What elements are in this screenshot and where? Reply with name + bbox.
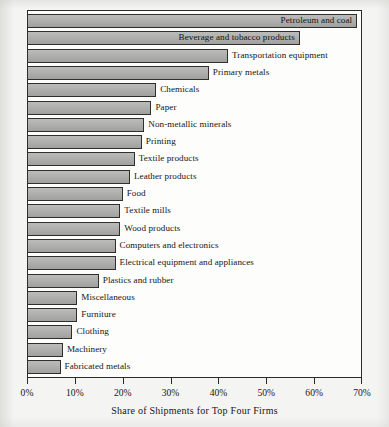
bar [27,360,61,374]
bar-row: Beverage and tobacco products [27,31,362,45]
x-axis-ticks [27,378,362,384]
x-axis-tick [123,378,124,384]
bar [27,101,151,115]
bar-row: Wood products [27,222,362,236]
bar-label: Textile products [139,151,199,166]
bar-label: Textile mills [124,203,171,218]
bar [27,152,135,166]
bar [27,170,130,184]
x-axis-tick-label: 60% [305,386,323,399]
bar-row: Furniture [27,308,362,322]
bar [27,118,144,132]
bar-label: Food [127,186,146,201]
bar-label: Clothing [76,324,108,339]
x-axis-title: Share of Shipments for Top Four Firms [27,405,362,416]
x-axis-tick-label: 50% [257,386,275,399]
x-axis-tick-label: 0% [21,386,34,399]
bar-label: Beverage and tobacco products [179,30,295,45]
x-axis-tick-label: 30% [162,386,180,399]
bar [27,204,120,218]
bar-row: Textile mills [27,204,362,218]
x-axis-tick [314,378,315,384]
bar-label: Fabricated metals [65,359,131,374]
x-axis-tick [171,378,172,384]
bar-row: Paper [27,101,362,115]
bar-label: Printing [146,134,176,149]
bar-label: Non-metallic minerals [148,117,231,132]
x-axis-tick [27,378,28,384]
bar [27,135,142,149]
bar-label: Transportation equipment [232,48,328,63]
bar [27,187,123,201]
bar-label: Machinery [67,342,107,357]
bar-row: Leather products [27,170,362,184]
x-axis-tick-label: 40% [210,386,228,399]
bar-label: Plastics and rubber [103,273,174,288]
bar-row: Food [27,187,362,201]
bar [27,83,156,97]
x-axis-tick [361,378,362,384]
bar-row: Machinery [27,343,362,357]
bar-row: Miscellaneous [27,291,362,305]
bar [27,325,72,339]
bar [27,256,116,270]
bar-label: Leather products [134,169,197,184]
x-axis-tick [218,378,219,384]
bar-row: Fabricated metals [27,360,362,374]
bar [27,274,99,288]
bar-label: Computers and electronics [120,238,219,253]
bar [27,343,63,357]
bar [27,49,228,63]
bar-row: Primary metals [27,66,362,80]
bar-chart: Petroleum and coalBeverage and tobacco p… [0,0,389,427]
x-axis-tick [75,378,76,384]
x-axis-tick-label: 10% [66,386,84,399]
bar-row: Electrical equipment and appliances [27,256,362,270]
x-axis-tick-label: 70% [353,386,371,399]
bar-label: Petroleum and coal [281,13,353,28]
bar-label: Primary metals [213,65,269,80]
x-axis-tick-label: 20% [114,386,132,399]
bar [27,308,77,322]
bar [27,66,209,80]
bar-row: Petroleum and coal [27,14,362,28]
bar [27,291,77,305]
bar-row: Non-metallic minerals [27,118,362,132]
bar-label: Miscellaneous [81,290,135,305]
bars-layer: Petroleum and coalBeverage and tobacco p… [27,10,362,378]
bar-row: Computers and electronics [27,239,362,253]
x-axis-tick [266,378,267,384]
bar-label: Chemicals [160,82,199,97]
bar [27,222,120,236]
bar-row: Chemicals [27,83,362,97]
bar-label: Furniture [81,307,116,322]
bar-row: Transportation equipment [27,49,362,63]
bar-label: Paper [155,100,176,115]
bar-label: Electrical equipment and appliances [120,255,254,270]
bar-row: Clothing [27,325,362,339]
bar-row: Plastics and rubber [27,274,362,288]
bar-row: Textile products [27,152,362,166]
bar-label: Wood products [124,221,180,236]
bar [27,239,116,253]
x-axis-tick-labels: 0%10%20%30%40%50%60%70% [0,386,389,400]
bar-row: Printing [27,135,362,149]
